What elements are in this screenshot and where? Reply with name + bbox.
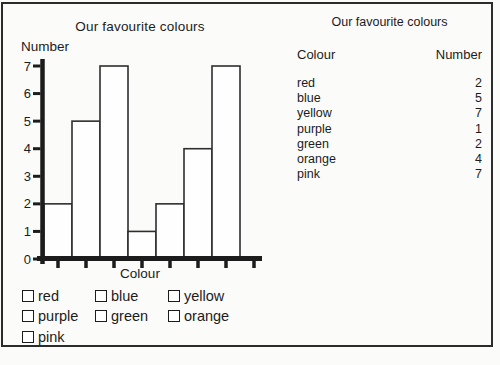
column-header-colour: Colour <box>297 47 335 62</box>
table-row-green: green2 <box>297 137 482 152</box>
cell-number: 5 <box>475 91 482 106</box>
cell-colour: orange <box>297 152 336 167</box>
legend-item-orange: orange <box>168 308 229 324</box>
legend-label-blue: blue <box>111 288 138 304</box>
y-tick-label-1: 1 <box>24 224 31 239</box>
y-tick-label-7: 7 <box>24 59 31 74</box>
legend-item-green: green <box>95 308 148 324</box>
legend-label-orange: orange <box>184 308 229 324</box>
legend-item-yellow: yellow <box>168 288 224 304</box>
table-row-yellow: yellow7 <box>297 106 482 121</box>
cell-number: 4 <box>475 152 482 167</box>
y-tick-label-4: 4 <box>24 141 31 156</box>
cell-colour: blue <box>297 91 321 106</box>
legend-item-blue: blue <box>95 288 138 304</box>
table-row-pink: pink7 <box>297 167 482 182</box>
y-tick-label-0: 0 <box>24 252 31 267</box>
legend-label-purple: purple <box>38 308 78 324</box>
table-row-purple: purple1 <box>297 122 482 137</box>
table-rows: red2blue5yellow7purple1green2orange4pink… <box>297 76 482 182</box>
checkbox-orange[interactable] <box>168 310 180 322</box>
table-title: Our favourite colours <box>277 15 500 29</box>
cell-colour: yellow <box>297 106 332 121</box>
data-table-panel: Our favourite colours Colour Number red2… <box>297 15 482 180</box>
checkbox-blue[interactable] <box>95 290 107 302</box>
table-row-blue: blue5 <box>297 91 482 106</box>
table-row-red: red2 <box>297 76 482 91</box>
bar-green <box>156 204 184 259</box>
legend-item-pink: pink <box>22 329 65 345</box>
y-tick-label-5: 5 <box>24 114 31 129</box>
legend-item-purple: purple <box>22 308 78 324</box>
x-axis-label: Colour <box>98 266 182 281</box>
legend-item-red: red <box>22 288 59 304</box>
cell-number: 7 <box>475 167 482 182</box>
cell-colour: purple <box>297 122 332 137</box>
checkbox-pink[interactable] <box>22 331 34 343</box>
y-tick-label-2: 2 <box>24 196 31 211</box>
table-row-orange: orange4 <box>297 152 482 167</box>
checkbox-red[interactable] <box>22 290 34 302</box>
column-header-number: Number <box>436 47 482 62</box>
bar-purple <box>128 231 156 259</box>
cell-number: 1 <box>475 122 482 137</box>
bar-blue <box>72 121 100 259</box>
legend-label-red: red <box>38 288 59 304</box>
legend-label-green: green <box>111 308 148 324</box>
bar-red <box>44 204 72 259</box>
bar-chart: 01234567 <box>0 0 280 300</box>
bar-pink <box>212 66 240 259</box>
bar-orange <box>184 149 212 259</box>
legend-label-yellow: yellow <box>184 288 224 304</box>
bar-yellow <box>100 66 128 259</box>
legend-label-pink: pink <box>38 329 65 345</box>
checkbox-green[interactable] <box>95 310 107 322</box>
cell-number: 2 <box>475 76 482 91</box>
y-tick-label-6: 6 <box>24 86 31 101</box>
cell-number: 2 <box>475 137 482 152</box>
cell-colour: pink <box>297 167 320 182</box>
table-header: Colour Number <box>297 47 482 62</box>
checkbox-purple[interactable] <box>22 310 34 322</box>
checkbox-yellow[interactable] <box>168 290 180 302</box>
cell-colour: green <box>297 137 329 152</box>
y-tick-label-3: 3 <box>24 169 31 184</box>
cell-number: 7 <box>475 106 482 121</box>
cell-colour: red <box>297 76 315 91</box>
